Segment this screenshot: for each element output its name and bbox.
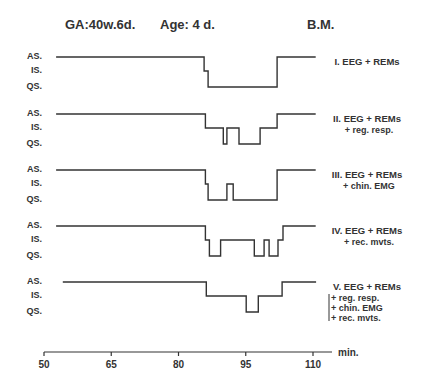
panel-title: III. EEG + REMs xyxy=(332,169,402,180)
hypnogram-panel-4: AS.IS.QS.IV. EEG + REMs+ rec. mvts. xyxy=(26,220,402,260)
level-label-as: AS. xyxy=(27,51,42,61)
level-label-is: IS. xyxy=(31,122,42,132)
level-label-qs: QS. xyxy=(26,250,42,260)
hypnogram-chart: AS.IS.QS.I. EEG + REMsAS.IS.QS.II. EEG +… xyxy=(0,0,422,388)
level-label-as: AS. xyxy=(27,164,42,174)
panel-sublabel: + reg. resp. xyxy=(331,293,379,303)
sleep-state-trace xyxy=(63,282,316,312)
level-label-as: AS. xyxy=(27,276,42,286)
panel-sublabel: + reg. resp. xyxy=(345,125,393,135)
sleep-state-trace xyxy=(56,57,316,87)
panel-sublabel: + rec. mvts. xyxy=(344,237,394,247)
x-axis: 50658095110min. xyxy=(38,347,358,370)
panel-sublabel: + rec. mvts. xyxy=(331,313,381,323)
panel-title: I. EEG + REMs xyxy=(334,56,399,67)
sleep-state-trace xyxy=(56,114,316,144)
hypnogram-panel-5: AS.IS.QS.V. EEG + REMs+ reg. resp.+ chin… xyxy=(26,276,401,323)
level-label-qs: QS. xyxy=(26,306,42,316)
level-label-as: AS. xyxy=(27,220,42,230)
level-label-as: AS. xyxy=(27,108,42,118)
sleep-state-trace xyxy=(56,170,316,200)
level-label-is: IS. xyxy=(31,290,42,300)
x-tick-label: 65 xyxy=(106,359,118,370)
level-label-is: IS. xyxy=(31,178,42,188)
x-tick-label: 50 xyxy=(38,359,50,370)
sleep-state-trace xyxy=(56,226,316,256)
level-label-qs: QS. xyxy=(26,138,42,148)
hypnogram-panel-2: AS.IS.QS.II. EEG + REMs+ reg. resp. xyxy=(26,108,400,148)
level-label-qs: QS. xyxy=(26,81,42,91)
panel-sublabel: + chin. EMG xyxy=(331,303,383,313)
level-label-qs: QS. xyxy=(26,194,42,204)
panel-title: IV. EEG + REMs xyxy=(332,225,403,236)
level-label-is: IS. xyxy=(31,65,42,75)
hypnogram-panel-3: AS.IS.QS.III. EEG + REMs+ chin. EMG xyxy=(26,164,402,204)
x-tick-label: 95 xyxy=(240,359,252,370)
panel-title: II. EEG + REMs xyxy=(333,113,401,124)
x-tick-label: 110 xyxy=(305,359,322,370)
x-tick-label: 80 xyxy=(173,359,185,370)
level-label-is: IS. xyxy=(31,234,42,244)
hypnogram-panel-1: AS.IS.QS.I. EEG + REMs xyxy=(26,51,399,91)
panel-sublabel: + chin. EMG xyxy=(343,181,395,191)
panel-title: V. EEG + REMs xyxy=(333,281,401,292)
x-axis-unit: min. xyxy=(338,347,359,358)
